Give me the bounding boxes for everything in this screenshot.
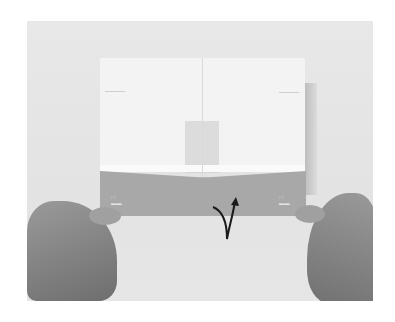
folded-flap — [100, 171, 306, 216]
crease-mark — [105, 91, 125, 92]
flap-print-right: ⁝⁝▬▬ — [279, 194, 290, 206]
fold-arrow-icon — [207, 193, 243, 243]
photo: ⁝⁝▬▬ ⁝⁝▬▬ — [27, 21, 373, 301]
crease-mark — [279, 92, 299, 93]
left-thumb — [89, 207, 121, 225]
center-crease — [202, 58, 203, 196]
right-thumb — [295, 205, 325, 223]
paper-shadow — [305, 83, 317, 195]
flap-print-left: ⁝⁝▬▬ — [111, 194, 122, 206]
